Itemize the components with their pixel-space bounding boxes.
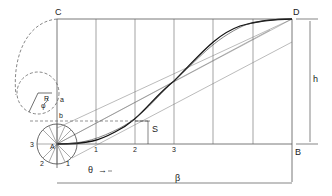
cycloidal-motion-diagram: C D A B a b R φ S h θ → β 1 2 3 1 2 3 bbox=[0, 0, 332, 196]
division-label-3: 3 bbox=[172, 146, 176, 153]
division-label-2: 2 bbox=[133, 146, 137, 153]
label-phi: φ bbox=[41, 102, 46, 110]
label-B: B bbox=[295, 147, 301, 157]
label-A: A bbox=[50, 143, 55, 150]
label-D: D bbox=[293, 7, 300, 17]
label-C: C bbox=[55, 7, 62, 17]
label-a: a bbox=[60, 96, 64, 103]
dashed-arc-outer bbox=[15, 19, 57, 95]
circle-label-2: 2 bbox=[40, 160, 44, 167]
guide-lines bbox=[57, 19, 292, 158]
circle-label-1: 1 bbox=[66, 160, 70, 167]
frame bbox=[57, 19, 292, 182]
theta-arrow-icon: → bbox=[98, 165, 107, 175]
rolling-circle-spokes bbox=[37, 124, 77, 164]
division-label-1: 1 bbox=[94, 146, 98, 153]
circle-label-3: 3 bbox=[30, 141, 34, 148]
label-S: S bbox=[152, 124, 158, 134]
label-R: R bbox=[44, 95, 49, 102]
label-theta: θ bbox=[88, 165, 93, 175]
label-b: b bbox=[59, 112, 63, 119]
label-beta: β bbox=[175, 173, 180, 183]
s-dimension bbox=[135, 121, 150, 144]
label-h: h bbox=[313, 74, 318, 84]
